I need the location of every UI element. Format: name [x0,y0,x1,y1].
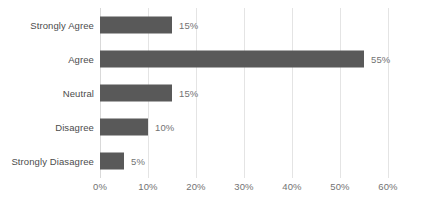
category-label: Strongly Agree [30,20,94,31]
category-label: Neutral [63,88,94,99]
bar-value-label: 55% [371,54,390,65]
category-label: Agree [68,54,94,65]
x-tick-label: 60% [378,181,397,192]
x-tick-label: 10% [138,181,157,192]
category-label: Disagree [55,122,94,133]
bar [100,51,364,68]
bar [100,153,124,170]
plot-area: Strongly Agree15%Agree55%Neutral15%Disag… [100,8,388,178]
bar-row: Neutral15% [100,76,388,110]
x-tick-label: 30% [234,181,253,192]
bar-value-label: 15% [179,88,198,99]
bar [100,119,148,136]
bar [100,17,172,34]
bar-row: Disagree10% [100,110,388,144]
bar-row: Strongly Agree15% [100,8,388,42]
x-tick-label: 20% [186,181,205,192]
bar-chart: Strongly Agree15%Agree55%Neutral15%Disag… [0,0,427,203]
x-tick-label: 50% [330,181,349,192]
bar-value-label: 5% [131,156,145,167]
gridline-60pct [388,8,389,178]
bar-rows: Strongly Agree15%Agree55%Neutral15%Disag… [100,8,388,178]
bar-row: Agree55% [100,42,388,76]
bar-row: Strongly Diasagree5% [100,144,388,178]
bar-value-label: 15% [179,20,198,31]
x-axis-tick-labels: 0%10%20%30%40%50%60% [100,181,388,197]
category-label: Strongly Diasagree [11,156,94,167]
bar-value-label: 10% [155,122,174,133]
bar [100,85,172,102]
x-tick-label: 0% [93,181,107,192]
x-tick-label: 40% [282,181,301,192]
